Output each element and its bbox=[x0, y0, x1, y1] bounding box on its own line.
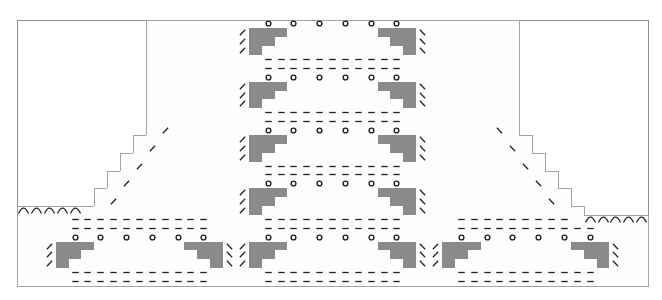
purl-dash-icon bbox=[532, 277, 545, 286]
purl-dash-icon bbox=[365, 55, 378, 64]
yarn-over-icon bbox=[146, 233, 159, 242]
purl-dash-icon bbox=[532, 215, 545, 224]
purl-dash-icon bbox=[352, 268, 365, 277]
purl-dash-icon bbox=[455, 277, 468, 286]
right-decrease-icon bbox=[159, 126, 172, 135]
purl-dash-icon bbox=[287, 277, 300, 286]
left-decrease-icon bbox=[416, 91, 429, 100]
left-decrease-icon bbox=[416, 206, 429, 215]
purl-dash-icon bbox=[287, 171, 300, 180]
purl-dash-icon bbox=[493, 224, 506, 233]
purl-dash-icon bbox=[262, 224, 275, 233]
yarn-over-icon bbox=[339, 73, 352, 82]
left-decrease-icon bbox=[532, 179, 545, 188]
purl-dash-icon bbox=[120, 215, 133, 224]
purl-dash-icon bbox=[378, 268, 391, 277]
purl-dash-icon bbox=[107, 277, 120, 286]
left-decrease-icon bbox=[416, 144, 429, 153]
purl-dash-icon bbox=[275, 117, 288, 126]
purl-dash-icon bbox=[481, 268, 494, 277]
purl-dash-icon bbox=[558, 215, 571, 224]
purl-dash-icon bbox=[69, 277, 82, 286]
purl-dash-icon bbox=[493, 268, 506, 277]
left-decrease-icon bbox=[416, 82, 429, 91]
yarn-over-icon bbox=[262, 233, 275, 242]
purl-dash-icon bbox=[172, 215, 185, 224]
purl-dash-icon bbox=[159, 215, 172, 224]
purl-dash-icon bbox=[69, 215, 82, 224]
purl-dash-icon bbox=[326, 171, 339, 180]
yarn-over-icon bbox=[287, 73, 300, 82]
yarn-over-icon bbox=[313, 126, 326, 135]
chart-cell bbox=[429, 277, 443, 287]
purl-dash-icon bbox=[313, 268, 326, 277]
purl-dash-icon bbox=[571, 277, 584, 286]
right-decrease-icon bbox=[236, 91, 249, 100]
purl-dash-icon bbox=[545, 268, 558, 277]
purl-dash-icon bbox=[481, 224, 494, 233]
yarn-over-icon bbox=[481, 233, 494, 242]
chart-cell bbox=[210, 277, 224, 287]
purl-dash-icon bbox=[133, 215, 146, 224]
yarn-over-icon bbox=[313, 233, 326, 242]
purl-dash-icon bbox=[519, 224, 532, 233]
purl-dash-icon bbox=[378, 55, 391, 64]
purl-dash-icon bbox=[584, 277, 597, 286]
purl-dash-icon bbox=[545, 277, 558, 286]
cast-on-arc-icon bbox=[584, 215, 597, 224]
yarn-over-icon bbox=[287, 179, 300, 188]
purl-dash-icon bbox=[275, 55, 288, 64]
purl-dash-icon bbox=[120, 277, 133, 286]
left-decrease-icon bbox=[416, 242, 429, 251]
purl-dash-icon bbox=[300, 171, 313, 180]
purl-dash-icon bbox=[287, 108, 300, 117]
purl-dash-icon bbox=[326, 224, 339, 233]
yarn-over-icon bbox=[172, 233, 185, 242]
chart-cell bbox=[30, 277, 44, 287]
purl-dash-icon bbox=[468, 224, 481, 233]
right-decrease-icon bbox=[429, 259, 442, 268]
purl-dash-icon bbox=[365, 64, 378, 73]
purl-dash-icon bbox=[545, 224, 558, 233]
yarn-over-icon bbox=[365, 73, 378, 82]
purl-dash-icon bbox=[94, 224, 107, 233]
purl-dash-icon bbox=[365, 224, 378, 233]
chart-cell bbox=[622, 277, 636, 287]
purl-dash-icon bbox=[390, 277, 403, 286]
purl-dash-icon bbox=[300, 117, 313, 126]
purl-dash-icon bbox=[262, 277, 275, 286]
purl-dash-icon bbox=[300, 64, 313, 73]
purl-dash-icon bbox=[287, 268, 300, 277]
right-decrease-icon bbox=[236, 82, 249, 91]
purl-dash-icon bbox=[481, 215, 494, 224]
cast-on-arc-icon bbox=[17, 206, 30, 215]
purl-dash-icon bbox=[378, 162, 391, 171]
chart-cell bbox=[43, 277, 57, 287]
right-decrease-icon bbox=[236, 197, 249, 206]
purl-dash-icon bbox=[262, 55, 275, 64]
purl-dash-icon bbox=[107, 224, 120, 233]
left-decrease-icon bbox=[416, 37, 429, 46]
purl-dash-icon bbox=[275, 64, 288, 73]
purl-dash-icon bbox=[275, 215, 288, 224]
purl-dash-icon bbox=[300, 268, 313, 277]
purl-dash-icon bbox=[146, 215, 159, 224]
yarn-over-icon bbox=[262, 20, 275, 29]
left-decrease-icon bbox=[416, 250, 429, 259]
yarn-over-icon bbox=[390, 179, 403, 188]
yarn-over-icon bbox=[365, 126, 378, 135]
yarn-over-icon bbox=[390, 20, 403, 29]
yarn-over-icon bbox=[390, 126, 403, 135]
purl-dash-icon bbox=[287, 64, 300, 73]
right-decrease-icon bbox=[43, 242, 56, 251]
right-decrease-icon bbox=[236, 242, 249, 251]
purl-dash-icon bbox=[339, 55, 352, 64]
left-decrease-icon bbox=[609, 242, 622, 251]
left-decrease-icon bbox=[519, 162, 532, 171]
purl-dash-icon bbox=[94, 277, 107, 286]
purl-dash-icon bbox=[558, 224, 571, 233]
yarn-over-icon bbox=[390, 233, 403, 242]
left-decrease-icon bbox=[223, 259, 236, 268]
left-decrease-icon bbox=[506, 144, 519, 153]
purl-dash-icon bbox=[133, 277, 146, 286]
